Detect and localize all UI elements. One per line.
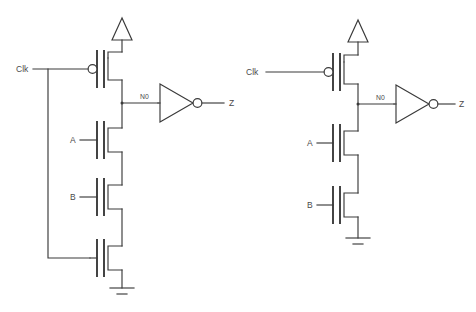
nmos-a-left: A [70, 121, 122, 159]
nmos-footer-left [90, 239, 122, 277]
b-label-right: B [307, 200, 313, 210]
clk-label-right: Clk [246, 67, 259, 77]
left-circuit: Clk N0 A B [16, 18, 234, 294]
nmos-a-right: A [307, 124, 358, 162]
n0-node-left: N0 [121, 80, 159, 128]
n0-junction-dot-left [121, 102, 124, 105]
schematic-canvas: Clk N0 A B [0, 0, 476, 312]
z-label-left: Z [229, 98, 234, 108]
nmos-b-right: B [307, 186, 358, 224]
a-label-right: A [307, 138, 313, 148]
clk-input-right: Clk [246, 67, 324, 77]
ground-symbol-right [346, 217, 370, 244]
n0-node-right: N0 [357, 84, 395, 131]
inverter-bubble-left [193, 99, 202, 108]
output-inverter-left: Z [158, 84, 234, 122]
n0-label-right: N0 [376, 94, 385, 101]
a-label-left: A [70, 135, 76, 145]
right-circuit: Clk N0 A B [246, 20, 464, 244]
nmos-b-left: B [70, 178, 122, 216]
vdd-arrow-left [112, 18, 132, 52]
circuit-diagram-svg: Clk N0 A B [0, 0, 476, 312]
b-label-left: B [70, 192, 76, 202]
n0-junction-dot-right [357, 103, 360, 106]
vdd-arrow-right [348, 20, 368, 55]
ground-symbol-left [110, 270, 134, 294]
clk-label-left: Clk [16, 64, 29, 74]
output-inverter-right: Z [394, 85, 464, 123]
pmos-precharge-left [88, 50, 122, 88]
inverter-bubble-right [429, 100, 438, 109]
z-label-right: Z [459, 99, 464, 109]
n0-label-left: N0 [140, 93, 149, 100]
pmos-precharge-right [324, 53, 358, 91]
clk-input-left: Clk [16, 64, 90, 258]
